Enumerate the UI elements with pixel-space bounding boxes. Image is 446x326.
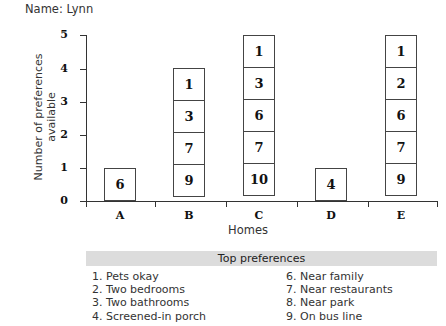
x-category-label: B	[174, 209, 204, 222]
student-name: Name: Lynn	[25, 2, 93, 16]
preference-cell: 1	[385, 35, 417, 68]
preference-cell: 1	[173, 68, 205, 101]
preference-item: 2. Two bedrooms	[92, 283, 206, 296]
preference-cell: 6	[385, 99, 417, 132]
preference-cell: 3	[173, 100, 205, 133]
preference-item: 1. Pets okay	[92, 270, 206, 283]
y-tick-label: 5	[56, 28, 68, 41]
bar-stack-c: 1 3 6 7 10	[243, 35, 275, 196]
preference-item: 6. Near family	[286, 270, 393, 283]
preference-cell: 7	[385, 131, 417, 164]
y-tick-label: 0	[56, 194, 68, 207]
preference-cell: 1	[243, 35, 275, 68]
y-tick-label: 3	[56, 95, 68, 108]
x-tick	[155, 201, 156, 207]
preference-cell: 2	[385, 67, 417, 100]
x-tick	[368, 201, 369, 207]
preference-item: 9. On bus line	[286, 310, 393, 323]
preference-cell: 10	[243, 163, 275, 196]
bar-stack-d: 4	[315, 168, 347, 201]
bar-stack-b: 1 3 7 9	[173, 68, 205, 197]
preferences-list-left: 1. Pets okay 2. Two bedrooms 3. Two bath…	[92, 270, 206, 323]
x-category-label: E	[386, 209, 416, 222]
x-tick	[297, 201, 298, 207]
y-tick-label: 2	[56, 128, 68, 141]
preference-cell: 9	[385, 163, 417, 196]
x-axis	[80, 201, 438, 202]
preference-cell: 7	[173, 132, 205, 165]
y-tick-label: 1	[56, 161, 68, 174]
preference-cell: 9	[173, 164, 205, 197]
x-tick	[226, 201, 227, 207]
x-category-label: D	[316, 209, 346, 222]
x-category-label: C	[244, 209, 274, 222]
preference-item: 7. Near restaurants	[286, 283, 393, 296]
y-axis	[86, 35, 87, 207]
preference-cell: 7	[243, 131, 275, 164]
y-axis-label: Number of preferences available	[32, 32, 58, 202]
x-tick	[437, 201, 438, 207]
preference-item: 3. Two bathrooms	[92, 296, 206, 309]
preference-cell: 6	[243, 99, 275, 132]
y-tick-label: 4	[56, 62, 68, 75]
bar-stack-e: 1 2 6 7 9	[385, 35, 417, 196]
bar-stack-a: 6	[104, 168, 136, 201]
preference-cell: 3	[243, 67, 275, 100]
preference-cell: 4	[315, 168, 347, 201]
preferences-list-right: 6. Near family 7. Near restaurants 8. Ne…	[286, 270, 393, 323]
preference-cell: 6	[104, 168, 136, 201]
preference-item: 8. Near park	[286, 296, 393, 309]
x-axis-label: Homes	[228, 223, 268, 237]
preference-item: 4. Screened-in porch	[92, 310, 206, 323]
preferences-header: Top preferences	[86, 251, 437, 266]
x-category-label: A	[105, 209, 135, 222]
